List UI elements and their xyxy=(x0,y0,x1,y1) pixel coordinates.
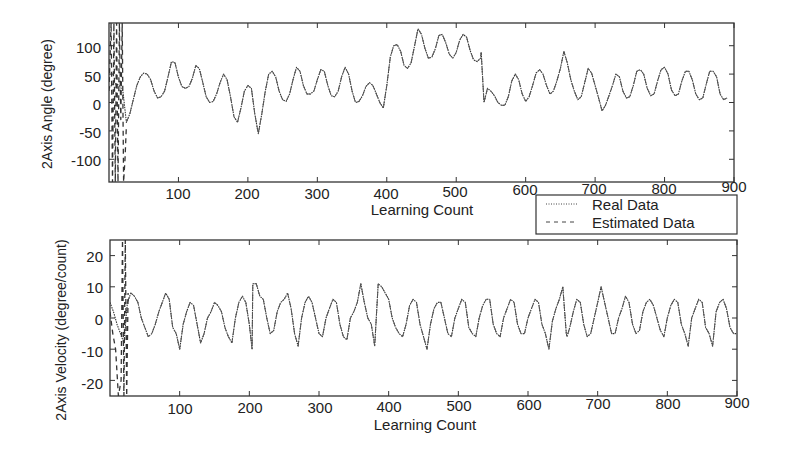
bottom-ytick-0: 0 xyxy=(95,311,103,328)
bottom-ytick-20: 20 xyxy=(86,248,103,265)
bottom-plot-frame xyxy=(110,240,737,396)
top-xtick-600: 600 xyxy=(512,181,537,198)
bottom-xtick-100: 100 xyxy=(167,400,192,417)
top-xtick-100: 100 xyxy=(165,185,190,202)
top-xtick-200: 200 xyxy=(234,185,259,202)
bottom-ytick-10: 10 xyxy=(86,279,103,296)
top-xtick-500: 500 xyxy=(442,183,467,200)
bottom-ytick-neg10: -10 xyxy=(81,343,103,360)
top-ytick-neg100: -100 xyxy=(71,152,101,169)
top-xtick-400: 400 xyxy=(373,185,398,202)
bottom-plot-ytick-labels: 20 10 0 -10 -20 xyxy=(81,248,103,392)
top-plot-ytick-labels: 100 50 0 -50 -100 xyxy=(71,39,101,169)
legend-real-label: Real Data xyxy=(592,196,659,213)
top-plot-xlabel: Learning Count xyxy=(371,201,474,218)
legend-estimated-label: Estimated Data xyxy=(592,214,695,231)
bottom-plot-xtick-labels: 100 200 300 400 500 600 700 800 900 xyxy=(167,394,749,417)
bottom-ytick-neg20: -20 xyxy=(81,375,103,392)
top-xtick-300: 300 xyxy=(304,185,329,202)
bottom-plot-xlabel: Learning Count xyxy=(374,416,477,433)
top-plot-frame xyxy=(109,23,734,182)
top-ytick-100: 100 xyxy=(76,39,101,56)
bottom-xtick-300: 300 xyxy=(307,399,332,416)
top-xtick-900: 900 xyxy=(721,178,746,195)
bottom-plot-ylabel: 2Axis Velocity (degree/count) xyxy=(53,239,69,420)
top-plot-ylabel: 2Axis Angle (degree) xyxy=(39,39,55,169)
bottom-xtick-800: 800 xyxy=(655,395,680,412)
top-ytick-neg50: -50 xyxy=(79,124,101,141)
bottom-xtick-700: 700 xyxy=(585,395,610,412)
legend: Real Data Estimated Data xyxy=(536,195,737,234)
top-plot: 100 50 0 -50 -100 100 200 300 400 500 60… xyxy=(39,23,747,218)
bottom-xtick-200: 200 xyxy=(237,399,262,416)
top-ytick-0: 0 xyxy=(93,96,101,113)
bottom-xtick-900: 900 xyxy=(724,394,749,411)
bottom-xtick-500: 500 xyxy=(446,397,471,414)
figure: 100 50 0 -50 -100 100 200 300 400 500 60… xyxy=(0,0,790,452)
bottom-plot: 20 10 0 -10 -20 100 200 300 400 500 600 … xyxy=(53,239,750,433)
bottom-xtick-400: 400 xyxy=(376,398,401,415)
top-ytick-50: 50 xyxy=(84,68,101,85)
bottom-xtick-600: 600 xyxy=(516,396,541,413)
